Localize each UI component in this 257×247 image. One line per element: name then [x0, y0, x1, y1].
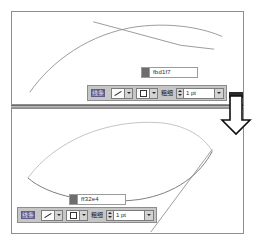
spinner-down-icon[interactable]: [177, 93, 183, 98]
arc-stroke: [30, 25, 222, 92]
chevron-down-icon[interactable]: [55, 210, 63, 221]
line-style-dropdown[interactable]: [41, 210, 63, 221]
upper-style-toolbar[interactable]: 线条 粗细 1 pt: [87, 85, 227, 101]
down-arrow-annotation: [220, 92, 254, 136]
hex-color-value[interactable]: fbd1f7: [150, 68, 197, 77]
line-style-icon[interactable]: [111, 88, 125, 99]
line-width-value[interactable]: 1 pt: [183, 88, 215, 99]
upper-drawing-panel[interactable]: fbd1f7 线条 粗细 1 pt: [11, 11, 244, 105]
arrow-body: [222, 96, 250, 134]
spinner-buttons[interactable]: [106, 210, 113, 221]
line-width-value[interactable]: 1 pt: [113, 210, 145, 221]
chevron-down-icon[interactable]: [80, 210, 88, 221]
fill-style-dropdown[interactable]: [136, 88, 158, 99]
chevron-down-icon[interactable]: [150, 88, 158, 99]
spinner-buttons[interactable]: [176, 88, 183, 99]
line-style-label: 线条: [91, 89, 105, 97]
hex-color-swatch[interactable]: [142, 68, 150, 77]
diagonal-stroke: [151, 149, 212, 232]
hex-color-value[interactable]: ff32e4: [78, 195, 125, 204]
line-style-label: 线条: [21, 211, 35, 219]
line-style-icon[interactable]: [41, 210, 55, 221]
lower-drawing-panel[interactable]: ff32e4 线条 粗细 1 pt: [11, 108, 244, 234]
chevron-down-icon[interactable]: [125, 88, 133, 99]
fill-style-icon[interactable]: [66, 210, 80, 221]
line-width-spinner[interactable]: 1 pt: [176, 88, 224, 99]
lower-style-toolbar[interactable]: 线条 粗细 1 pt: [17, 207, 157, 223]
line-style-dropdown[interactable]: [111, 88, 133, 99]
hex-color-swatch[interactable]: [70, 195, 78, 204]
line-width-label: 粗细: [91, 211, 103, 219]
line-width-label: 粗细: [161, 89, 173, 97]
spinner-down-icon[interactable]: [107, 215, 113, 220]
hex-color-field-top[interactable]: fbd1f7: [141, 67, 198, 78]
upper-arc-stroke: [28, 122, 212, 178]
fill-style-dropdown[interactable]: [66, 210, 88, 221]
hex-color-field-bottom[interactable]: ff32e4: [69, 194, 126, 205]
screenshot-root: fbd1f7 线条 粗细 1 pt: [0, 0, 257, 247]
fill-style-icon[interactable]: [136, 88, 150, 99]
angular-stroke: [93, 22, 214, 49]
line-width-chevron-down-icon[interactable]: [145, 210, 154, 221]
line-width-spinner[interactable]: 1 pt: [106, 210, 154, 221]
